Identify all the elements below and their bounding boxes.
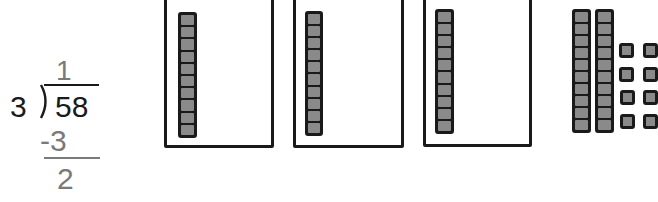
dividend: 58 (55, 92, 88, 122)
division-bracket-icon (38, 84, 52, 120)
ones-cube (643, 67, 658, 82)
subtraction: -3 (40, 126, 67, 156)
ones-cube (643, 43, 658, 58)
ones-cube (619, 67, 634, 82)
division-bar (44, 84, 99, 86)
group-box-1 (164, 0, 274, 148)
group-box-2 (293, 0, 404, 148)
remainder-tens: 2 (57, 164, 74, 194)
tens-rod (435, 9, 454, 134)
leftover-tens-rod-2 (595, 9, 614, 133)
quotient-digit: 1 (56, 56, 72, 86)
divisor: 3 (10, 92, 27, 122)
tens-rod (178, 12, 197, 138)
subtraction-line (44, 157, 100, 159)
leftover-tens-rod-1 (572, 9, 591, 133)
group-box-3 (423, 0, 532, 147)
ones-cube (619, 43, 634, 58)
ones-cube (620, 90, 635, 105)
ones-cube (643, 90, 658, 105)
ones-cube (620, 114, 635, 129)
tens-rod (305, 11, 323, 136)
ones-cube (643, 114, 658, 129)
